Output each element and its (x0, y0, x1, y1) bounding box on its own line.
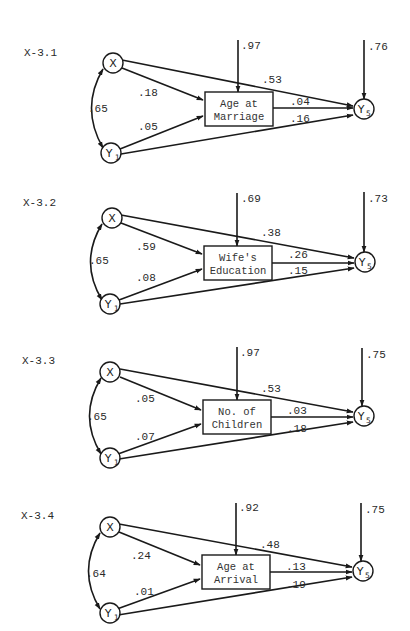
node-y1: Y 1 (100, 294, 120, 314)
m-to-y5-label: .03 (287, 405, 307, 417)
x-to-y5-label: .48 (260, 539, 280, 551)
svg-text:Y: Y (357, 103, 365, 116)
diagram-x-3-2: X-3.2 .65 .59 .08 .38 .15 .26 .69 .73 Wi… (23, 192, 388, 314)
mediator-line-1: Age at (217, 561, 255, 573)
path-diagrams: X-3.1 .65 .18 .05 .53 .16 .04 .97 .76 Ag… (0, 0, 410, 631)
node-y1: Y 1 (101, 143, 121, 163)
mediator-line-1: No. of (218, 406, 256, 418)
node-x: X (100, 517, 120, 537)
diagram-label: X-3.3 (22, 355, 55, 367)
x-to-m-label: .59 (136, 241, 156, 253)
x-to-y5-label: .53 (262, 74, 282, 86)
svg-text:Y: Y (104, 298, 112, 311)
x-to-y5-label: .38 (261, 227, 281, 239)
residual-mediator-label: .69 (241, 193, 261, 205)
node-y1: Y 1 (100, 448, 120, 468)
mediator-line-2: Arrival (214, 574, 258, 586)
svg-text:1: 1 (114, 304, 119, 313)
edge-y1-to-mediator (118, 424, 201, 454)
node-x: X (100, 362, 120, 382)
svg-text:1: 1 (115, 153, 120, 162)
residual-y5-label: .75 (365, 504, 385, 516)
residual-y5-label: .75 (366, 349, 386, 361)
node-x: X (102, 208, 122, 228)
svg-text:X: X (108, 212, 116, 225)
node-y5: Y 5 (354, 406, 374, 426)
diagram-label: X-3.4 (21, 510, 54, 522)
node-y5: Y 5 (354, 99, 374, 119)
mediator-line-2: Education (210, 265, 267, 277)
x-to-m-label: .18 (138, 87, 158, 99)
mediator-line-1: Wife's (219, 252, 257, 264)
x-to-y5-label: .53 (261, 383, 281, 395)
node-x: X (103, 53, 123, 73)
m-to-y5-label: .26 (288, 249, 308, 261)
svg-text:Y: Y (104, 452, 112, 465)
svg-text:Y: Y (357, 410, 365, 423)
svg-text:Y: Y (358, 256, 366, 269)
svg-text:5: 5 (366, 416, 371, 425)
x-to-m-label: .24 (131, 550, 151, 562)
svg-text:1: 1 (114, 613, 119, 622)
m-to-y5-label: .04 (290, 96, 310, 108)
residual-y5-label: .76 (368, 41, 388, 53)
node-y5: Y 5 (355, 252, 375, 272)
node-y1: Y 1 (100, 603, 120, 623)
diagram-label: X-3.2 (23, 197, 56, 209)
y1-to-m-label: .07 (135, 431, 155, 443)
y1-to-m-label: .01 (134, 586, 154, 598)
residual-mediator-label: .97 (241, 40, 261, 52)
mediator-line-1: Age at (220, 98, 258, 110)
x-to-m-label: .05 (135, 393, 155, 405)
corr-label: .65 (88, 103, 108, 115)
svg-text:1: 1 (114, 458, 119, 467)
y1-to-m-label: .08 (136, 272, 156, 284)
diagram-label: X-3.1 (24, 47, 57, 59)
node-y5: Y 5 (353, 561, 373, 581)
svg-text:Y: Y (356, 565, 364, 578)
y1-to-y5-label: .19 (286, 579, 306, 591)
residual-mediator-label: .92 (239, 502, 259, 514)
diagram-x-3-4: X-3.4 .64 .24 .01 .48 .19 .13 .92 .75 Ag… (21, 502, 385, 623)
corr-label: .64 (86, 568, 106, 580)
edge-y1-to-mediator (120, 116, 203, 149)
residual-y5-label: .73 (368, 193, 388, 205)
diagram-x-3-1: X-3.1 .65 .18 .05 .53 .16 .04 .97 .76 Ag… (24, 40, 388, 163)
y1-to-y5-label: .16 (290, 113, 310, 125)
y1-to-m-label: .05 (138, 121, 158, 133)
y1-to-y5-label: .18 (287, 423, 307, 435)
residual-mediator-label: .97 (240, 347, 260, 359)
y1-to-y5-label: .15 (288, 265, 308, 277)
svg-text:Y: Y (104, 607, 112, 620)
edge-y1-to-mediator (119, 269, 202, 300)
svg-text:Y: Y (105, 147, 113, 160)
corr-label: .65 (89, 255, 109, 267)
svg-text:X: X (109, 57, 117, 70)
corr-label: .65 (87, 411, 107, 423)
svg-text:5: 5 (367, 262, 372, 271)
m-to-y5-label: .13 (286, 561, 306, 573)
svg-text:X: X (106, 366, 114, 379)
svg-text:5: 5 (366, 109, 371, 118)
svg-text:X: X (106, 521, 114, 534)
mediator-line-2: Marriage (214, 111, 264, 123)
mediator-line-2: Children (212, 419, 262, 431)
diagram-x-3-3: X-3.3 .65 .05 .07 .53 .18 .03 .97 .75 No… (22, 347, 386, 468)
svg-text:5: 5 (365, 571, 370, 580)
edge-x-to-mediator (122, 68, 203, 100)
